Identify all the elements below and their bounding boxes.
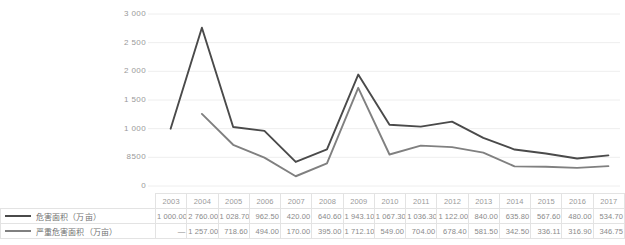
table-cell-value: 549.00 [374,224,405,239]
series-lines [171,28,609,176]
table-corner-cell [1,194,156,209]
column-header-year: 2004 [187,194,218,209]
table-cell-value: 1 257.00 [187,224,218,239]
column-header-year: 2011 [406,194,437,209]
column-header-year: 2013 [468,194,499,209]
legend-entry-0[interactable]: 危害面积（万亩） [1,209,156,224]
y-axis-tick-label: 1 500 [88,95,146,104]
table-cell-value: 678.40 [437,224,468,239]
table-cell-value: 1 028.70 [218,209,249,224]
gridlines [148,14,620,186]
table-cell-value: 962.50 [249,209,280,224]
table-cell-value: 704.00 [406,224,437,239]
legend-swatch-0 [5,215,31,217]
column-header-year: 2003 [156,194,187,209]
y-axis-tick-label: 2 000 [88,66,146,75]
column-header-year: 2010 [374,194,405,209]
legend-entry-1[interactable]: 严重危害面积（万亩） [1,224,156,239]
legend-swatch-1 [5,230,31,232]
table-cell-value: 640.60 [312,209,343,224]
table-cell-value: 346.75 [593,224,624,239]
column-header-year: 2009 [343,194,374,209]
table-cell-value: 534.70 [593,209,624,224]
table-row-series-1: 危害面积（万亩） 1 000.002 760.001 028.70962.504… [1,209,625,224]
legend-label-1: 严重危害面积（万亩） [36,226,117,237]
y-axis-tick-label: 8500 [88,152,146,161]
table-cell-value: 635.80 [499,209,530,224]
table-cell-value: 420.00 [281,209,312,224]
legend-label-0: 危害面积（万亩） [36,211,101,222]
table-cell-value: 1 000.00 [156,209,187,224]
table-cell-value: 336.11 [531,224,562,239]
column-header-year: 2015 [531,194,562,209]
column-header-year: 2005 [218,194,249,209]
table-cell-value: 316.90 [562,224,593,239]
line-chart-plot: 085001 0001 5002 0002 5003 000 [0,0,624,193]
table-cell-value: 1 712.10 [343,224,374,239]
column-header-year: 2012 [437,194,468,209]
table-cell-value: 1 036.30 [406,209,437,224]
table-cell-value: 2 760.00 [187,209,218,224]
table-cell-value: 581.50 [468,224,499,239]
column-header-year: 2006 [249,194,280,209]
y-axis-tick-label: 0 [88,181,146,190]
table-cell-value: 480.00 [562,209,593,224]
table-cell-value: 1 122.00 [437,209,468,224]
column-header-year: 2014 [499,194,530,209]
column-header-year: 2007 [281,194,312,209]
table-cell-value: 1 943.10 [343,209,374,224]
series-value-table: 2003200420052006200720082009201020112012… [0,193,625,239]
series-line-1 [202,88,608,176]
table-cell-value: 718.60 [218,224,249,239]
table-cell-value: 395.00 [312,224,343,239]
table-row-series-2: 严重危害面积（万亩） —1 257.00718.60494.00170.0039… [1,224,625,239]
y-axis-tick-label: 3 000 [88,9,146,18]
table-cell-value: 840.00 [468,209,499,224]
table-cell-value: 494.00 [249,224,280,239]
table-cell-value: 1 067.30 [374,209,405,224]
y-axis-tick-label: 2 500 [88,38,146,47]
column-header-year: 2016 [562,194,593,209]
table-cell-value: 342.50 [499,224,530,239]
table-cell-value: — [156,224,187,239]
data-table: 2003200420052006200720082009201020112012… [0,193,624,245]
table-row-years: 2003200420052006200720082009201020112012… [1,194,625,209]
table-cell-value: 567.60 [531,209,562,224]
table-cell-value: 170.00 [281,224,312,239]
column-header-year: 2008 [312,194,343,209]
column-header-year: 2017 [593,194,624,209]
series-line-0 [171,28,609,162]
y-axis-tick-label: 1 000 [88,124,146,133]
